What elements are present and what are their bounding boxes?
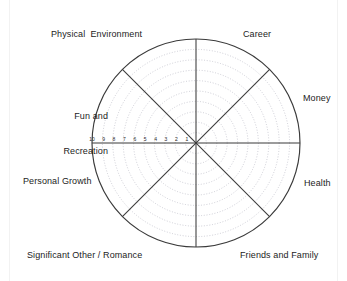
sector-label-health: Health [304,178,331,190]
sector-label-friends-and-family: Friends and Family [240,250,318,262]
sector-label-career: Career [243,29,271,41]
scale-tick-2: 2 [175,136,178,143]
sector-label-fun-and-recreation-line1: Fun and [46,111,108,123]
scale-tick-5: 5 [144,136,147,143]
scale-tick-1: 1 [185,136,188,143]
sector-label-money: Money [303,93,331,105]
scale-tick-3: 3 [165,136,168,143]
scale-tick-8: 8 [113,136,116,143]
sector-label-personal-growth: Personal Growth [23,176,92,188]
scale-tick-4: 4 [154,136,157,143]
scale-tick-6: 6 [133,136,136,143]
scale-tick-7: 7 [123,136,126,143]
wheel-of-life-page: 10 9 8 7 6 5 4 3 2 1 Physical Environmen… [0,0,347,281]
sector-label-physical-environment: Physical Environment [51,29,142,41]
sector-label-significant-other-romance: Significant Other / Romance [27,250,142,262]
sector-label-fun-and-recreation-line2: Recreation [46,146,108,158]
sector-label-fun-and-recreation: Fun and Recreation [46,88,108,180]
